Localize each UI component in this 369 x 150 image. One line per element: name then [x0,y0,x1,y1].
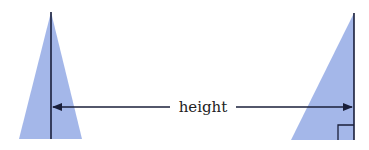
right-triangle [291,13,354,140]
height-diagram: height [0,0,369,150]
isosceles-triangle [19,12,82,139]
height-label: height [179,98,228,116]
